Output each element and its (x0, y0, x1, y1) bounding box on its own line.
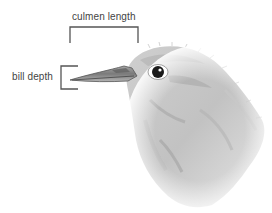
bird-eye (148, 65, 168, 80)
bird-head (125, 42, 272, 213)
beak (70, 66, 137, 82)
bird-head-illustration (0, 0, 272, 213)
culmen-length-bracket (70, 27, 138, 43)
bill-depth-bracket (61, 66, 78, 89)
